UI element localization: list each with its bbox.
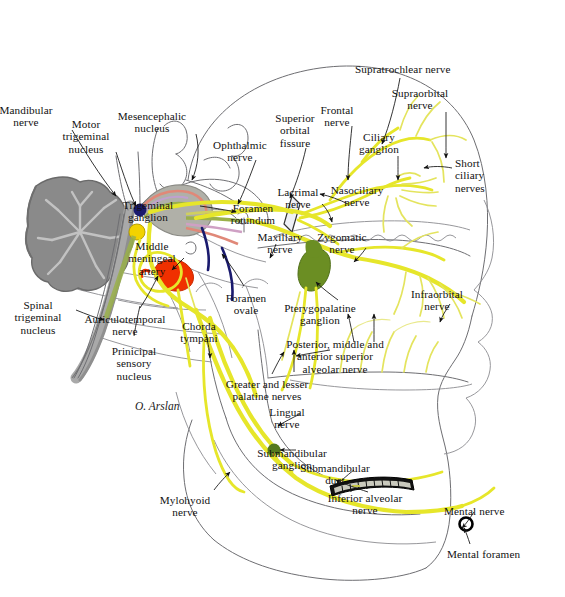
label-zygomatic-nerve: Zygomatic nerve bbox=[317, 231, 366, 256]
label-chorda-tympani: Chorda tympani bbox=[180, 320, 217, 345]
label-inferior-alveolar-nerve: Inferior alveolar nerve bbox=[328, 492, 403, 517]
label-mental-nerve: Mental nerve bbox=[444, 505, 505, 517]
label-foramen-ovale: Foramen ovale bbox=[226, 292, 266, 317]
label-lingual-nerve: Lingual nerve bbox=[269, 406, 305, 431]
label-maxillary-nerve: Maxillary nerve bbox=[257, 231, 302, 256]
label-pterygopalatine-ganglion: Pterygopalatine ganglion bbox=[284, 302, 356, 327]
label-foramen-rotundum: Foramen rotundum bbox=[231, 202, 275, 227]
anatomical-figure: .bone{fill:none;stroke:#6e6e72;stroke-wi… bbox=[0, 0, 565, 597]
label-frontal-nerve: Frontal nerve bbox=[320, 104, 353, 129]
label-spinal-trigeminal-nucleus: Spinal trigeminal nucleus bbox=[15, 299, 62, 336]
label-submandibular-duct: Submandibular duct bbox=[300, 462, 370, 487]
label-superior-orbital-fissure: Superior orbital fissure bbox=[275, 112, 314, 149]
label-prinicipal-sensory-nucleus: Prinicipal sensory nucleus bbox=[112, 345, 157, 382]
label-mylohyoid-nerve: Mylohyoid nerve bbox=[160, 494, 211, 519]
label-supratrochlear-nerve: Supratrochlear nerve bbox=[355, 63, 451, 75]
label-superior-alveolar-nerve: Posterior, middle and anterior superior … bbox=[286, 338, 384, 375]
label-mandibular-nerve: Mandibular nerve bbox=[0, 104, 53, 129]
label-middle-meningeal-artery: Middle meningeal artery bbox=[128, 240, 176, 277]
label-nasociliary-nerve: Nasociliary nerve bbox=[331, 184, 384, 209]
label-auriculotemporal-nerve: Auriculotemporal nerve bbox=[84, 313, 165, 338]
label-supraorbital-nerve: Supraorbital nerve bbox=[392, 87, 449, 112]
label-mesencephalic-nucleus: Mesencephalic nucleus bbox=[118, 110, 186, 135]
label-lacrimal-nerve: Lacrimal nerve bbox=[277, 186, 318, 211]
label-mental-foramen: Mental foramen bbox=[447, 548, 520, 560]
artist-signature: O. Arslan bbox=[135, 400, 180, 412]
label-ophthalmic-nerve: Ophthalmic nerve bbox=[213, 139, 267, 164]
label-ciliary-ganglion: Ciliary ganglion bbox=[359, 131, 399, 156]
label-short-ciliary-nerves: Short ciliary nerves bbox=[455, 157, 485, 194]
label-infraorbital-nerve: Infraorbital nerve bbox=[411, 288, 463, 313]
label-greater-and-lesser-palatine-nerves: Greater and lesser palatine nerves bbox=[226, 378, 309, 403]
label-trigeminal-ganglion: Trigeminal ganglion bbox=[123, 199, 173, 224]
label-motor-trigeminal-nucleus: Motor trigeminal nucleus bbox=[63, 118, 110, 155]
